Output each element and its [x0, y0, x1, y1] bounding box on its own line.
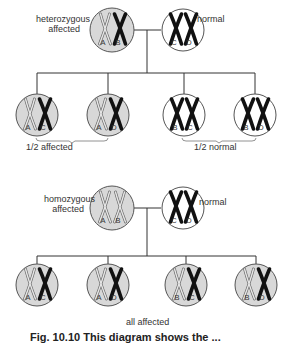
chromosome-label: D [111, 123, 117, 132]
chromosome-label: C [171, 38, 177, 47]
cross1-offspring-2: AD [87, 94, 129, 136]
cross2-normal-label: normal [199, 197, 227, 207]
cross1-parent-affected: AB [90, 8, 134, 52]
het-affected-label-1: heterozygous [20, 14, 90, 24]
chromosome-label: B [115, 216, 120, 225]
chromosome-label: A [25, 123, 30, 132]
cross1-offspring-4: BD [234, 94, 276, 136]
hom-affected-label-1: homozygous [20, 194, 95, 204]
chromosome-label: B [172, 123, 177, 132]
cross2-offspring-4: BD [235, 264, 277, 306]
chromosome-label: B [244, 293, 249, 302]
chromosome-label: C [189, 293, 195, 302]
cross2-parent-affected: AB [90, 186, 134, 230]
figure-caption: Fig. 10.10 This diagram shows the ... [30, 331, 221, 343]
chromosome-label: A [100, 38, 105, 47]
cross2-offspring-1: AC [16, 264, 58, 306]
cross1-normal-label: normal [197, 14, 225, 24]
cross2-parent-normal: CD [162, 187, 204, 229]
cross1-offspring-1: AC [16, 94, 58, 136]
half-affected-label: 1/2 affected [26, 142, 73, 152]
chromosome-label: B [174, 293, 179, 302]
chromosome-label: A [96, 293, 101, 302]
chromosome-label: A [100, 216, 105, 225]
het-affected-label-2: affected [20, 24, 80, 34]
chromosome-label: D [186, 216, 192, 225]
chromosome-label: B [243, 123, 248, 132]
chromosome-label: D [186, 38, 192, 47]
chromosome-label: C [40, 123, 46, 132]
chromosome-label: B [115, 38, 120, 47]
cell-circle [90, 8, 134, 52]
hom-affected-label-2: affected [20, 204, 84, 214]
chromosome-label: A [25, 293, 30, 302]
cross2-offspring-2: AD [87, 264, 129, 306]
chromosome-label: A [96, 123, 101, 132]
chromosome-label: C [171, 216, 177, 225]
chromosome-label: C [40, 293, 46, 302]
chromosome-label: D [259, 293, 265, 302]
cross2-offspring-3: BC [165, 264, 207, 306]
cell-circle [90, 186, 134, 230]
chromosome-label: C [187, 123, 193, 132]
chromosome-label: D [111, 293, 117, 302]
half-normal-label: 1/2 normal [194, 142, 237, 152]
all-affected-label: all affected [126, 317, 169, 327]
chromosome-label: D [258, 123, 264, 132]
cross1-offspring-3: BC [163, 94, 205, 136]
